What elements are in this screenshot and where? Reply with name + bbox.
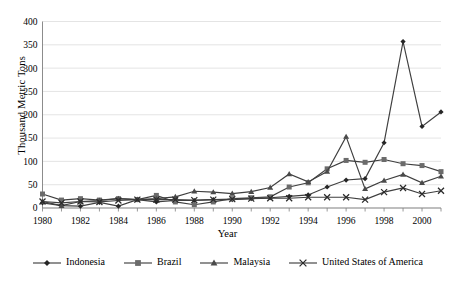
x-tick-label: 1994	[299, 216, 318, 226]
series-indonesia	[40, 39, 444, 209]
marker-square	[382, 157, 387, 162]
x-tick-label: 1982	[71, 216, 90, 226]
marker-square	[135, 260, 141, 266]
chart-legend: IndonesiaBrazilMalaysiaUnited States of …	[0, 250, 455, 272]
plot-area: 4003503002502001501005001980198219841986…	[0, 0, 455, 240]
series-united-states-of-america	[40, 185, 445, 206]
legend-item-brazil[interactable]: Brazil	[123, 255, 181, 267]
legend-item-united-states-of-america[interactable]: United States of America	[288, 255, 423, 267]
x-tick-label: 1996	[337, 216, 356, 226]
marker-triangle	[286, 171, 292, 176]
x-tick-label: 1984	[109, 216, 128, 226]
legend-label: Indonesia	[66, 256, 105, 267]
marker-triangle	[343, 134, 349, 139]
y-tick-label: 0	[33, 203, 38, 213]
x-tick-label: 1980	[33, 216, 52, 226]
y-tick-label: 300	[23, 64, 38, 74]
legend-item-indonesia[interactable]: Indonesia	[32, 255, 105, 267]
marker-diamond	[400, 39, 405, 44]
legend-label: Brazil	[157, 256, 181, 267]
marker-square	[420, 163, 425, 168]
legend-marker-diamond-icon	[32, 255, 62, 267]
marker-square	[192, 202, 197, 207]
legend-marker-square-icon	[123, 255, 153, 267]
marker-diamond	[381, 140, 386, 145]
y-tick-label: 150	[23, 133, 38, 143]
legend-label: United States of America	[322, 256, 423, 267]
marker-square	[363, 160, 368, 165]
x-tick-label: 1992	[261, 216, 280, 226]
x-tick-label: 1988	[185, 216, 204, 226]
y-tick-label: 200	[23, 110, 38, 120]
legend-label: Malaysia	[233, 256, 270, 267]
legend-marker-cross-icon	[288, 255, 318, 267]
x-tick-label: 1986	[147, 216, 166, 226]
x-axis-title-text: Year	[218, 228, 237, 239]
y-tick-label: 100	[23, 157, 38, 167]
marker-square	[401, 161, 406, 166]
marker-square	[344, 158, 349, 163]
y-tick-label: 400	[23, 17, 38, 27]
chart-container: Thousand Metric Tons 4003503002502001501…	[0, 0, 455, 282]
x-tick-label: 2000	[413, 216, 432, 226]
marker-diamond	[344, 177, 349, 182]
marker-diamond	[325, 184, 330, 189]
marker-triangle	[400, 171, 406, 176]
marker-square	[287, 185, 292, 190]
marker-triangle	[267, 184, 273, 189]
legend-item-malaysia[interactable]: Malaysia	[199, 255, 270, 267]
y-tick-label: 350	[23, 40, 38, 50]
y-tick-label: 50	[28, 180, 38, 190]
x-tick-label: 1990	[223, 216, 242, 226]
marker-diamond	[362, 176, 367, 181]
x-tick-label: 1998	[375, 216, 394, 226]
marker-square	[40, 192, 45, 197]
legend-marker-triangle-icon	[199, 255, 229, 267]
x-axis-title: Year	[0, 228, 455, 239]
y-tick-label: 250	[23, 87, 38, 97]
marker-diamond	[44, 260, 50, 266]
